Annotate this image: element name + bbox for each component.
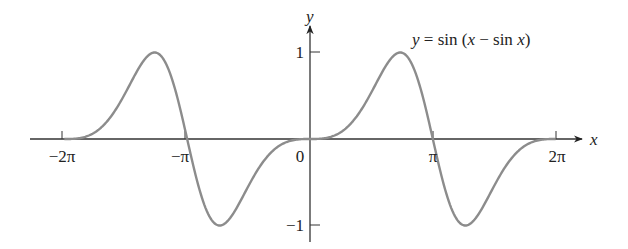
x-tick-label-neg2pi: −2π [49, 147, 76, 166]
chart-canvas: −2π −π 0 π 2π 1 −1 x y y = sin (x − sin … [0, 0, 628, 249]
x-tick-label-pi: π [429, 147, 438, 166]
equation-minus: − sin [475, 30, 517, 49]
x-axis-label: x [589, 130, 598, 149]
equation-label: y = sin (x − sin x) [410, 30, 530, 49]
y-tick-label-neg1: −1 [286, 216, 304, 235]
x-tick-label-negpi: −π [171, 147, 190, 166]
y-axis-label: y [304, 7, 314, 26]
x-tick-label-2pi: 2π [548, 147, 566, 166]
x-tick-label-zero: 0 [296, 147, 305, 166]
y-tick-label-1: 1 [296, 43, 305, 62]
equation-y: y [410, 30, 420, 49]
equation-eq: = sin ( [420, 30, 468, 49]
equation-close: ) [525, 30, 531, 49]
